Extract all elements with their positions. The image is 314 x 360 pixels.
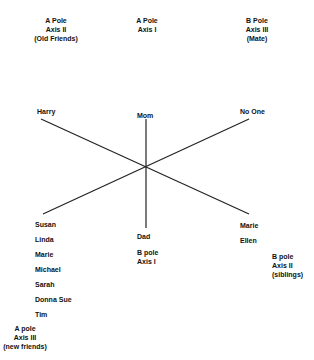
name-item: Sarah [35, 280, 72, 295]
name-item: Ellen [240, 236, 258, 251]
axis-label: Axis I [136, 25, 158, 34]
group-label: (new friends) [3, 342, 47, 351]
axis-label: Axis I [137, 257, 158, 266]
endpoint-mom: Mom [137, 111, 153, 120]
name-item: Marie [35, 250, 72, 265]
axis-label: Axis II [34, 25, 78, 34]
axis-label: Axis III [3, 333, 47, 342]
pole-label: B Pole [246, 16, 269, 25]
axis-label: Axis II [272, 261, 303, 270]
pole-b-axis-2: B pole Axis II (siblings) [272, 252, 303, 279]
name-item: Linda [35, 235, 72, 250]
name-item: Michael [35, 265, 72, 280]
pole-label: B pole [137, 248, 158, 257]
endpoint-dad: Dad [137, 232, 150, 241]
pole-b-axis-1: B pole Axis I [137, 248, 158, 266]
pole-b-axis-3: B Pole Axis III (Mate) [246, 16, 269, 43]
endpoint-harry: Harry [37, 107, 55, 116]
group-label: (Mate) [246, 34, 269, 43]
pole-a-axis-1: A Pole Axis I [136, 16, 158, 34]
name-item: Susan [35, 220, 72, 235]
endpoint-bottom-left-list: Susan Linda Marie Michael Sarah Donna Su… [35, 220, 72, 325]
pole-label: B pole [272, 252, 303, 261]
name-item: Marie [240, 221, 258, 236]
pole-a-axis-2: A Pole Axis II (Old Friends) [34, 16, 78, 43]
pole-a-axis-3: A pole Axis III (new friends) [3, 324, 47, 351]
pole-label: A pole [3, 324, 47, 333]
endpoint-no-one: No One [240, 107, 265, 116]
group-label: (Old Friends) [34, 34, 78, 43]
group-label: (siblings) [272, 270, 303, 279]
name-item: Tim [35, 310, 72, 325]
endpoint-bottom-right-list: Marie Ellen [240, 221, 258, 251]
name-item: Donna Sue [35, 295, 72, 310]
axis-label: Axis III [246, 25, 269, 34]
pole-label: A Pole [34, 16, 78, 25]
pole-label: A Pole [136, 16, 158, 25]
